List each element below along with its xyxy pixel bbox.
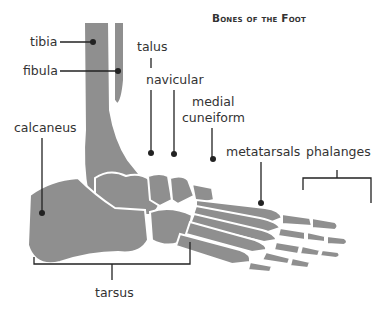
label-talus: talus — [137, 39, 167, 54]
cuneiform-bone — [170, 176, 194, 204]
label-tarsus: tarsus — [95, 285, 134, 300]
label-metatarsals: metatarsals — [226, 144, 300, 159]
phalanx-bone — [248, 262, 272, 272]
label-calcaneus: calcaneus — [14, 120, 77, 135]
phalanx-bone — [290, 258, 310, 268]
label-fibula: fibula — [23, 63, 58, 78]
phalanx-bone — [320, 250, 340, 258]
label-navicular: navicular — [146, 72, 204, 87]
phalanx-bone — [300, 246, 320, 256]
label-tibia: tibia — [30, 34, 57, 49]
fibula-bone — [114, 22, 124, 104]
phalanx-bone — [262, 252, 290, 264]
label-medial-cuneiform-line1: medial — [192, 94, 234, 109]
navicular-bone — [148, 174, 172, 206]
phalanx-bone — [312, 218, 338, 230]
phalanx-bone — [282, 214, 312, 226]
phalanx-bone — [307, 232, 325, 242]
label-medial-cuneiform-line2: cuneiform — [182, 110, 245, 125]
label-phalanges: phalanges — [306, 144, 371, 159]
phalanx-bone — [274, 242, 300, 254]
diagram-title: Bones of the Foot — [212, 12, 306, 24]
phalanx-bone — [278, 228, 305, 240]
phalanx-bone — [327, 236, 347, 245]
